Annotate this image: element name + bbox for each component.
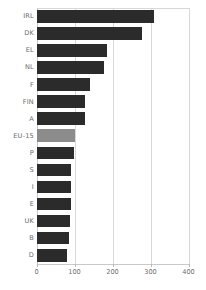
bar-el (37, 44, 107, 57)
category-label-uk: UK (24, 218, 34, 225)
bar-row (37, 93, 189, 110)
bars-layer (37, 8, 189, 264)
bar-chart: IRLDKELNLFFINAEU-15PSIEUKBD 010020030040… (0, 0, 206, 290)
bar-row (37, 127, 189, 144)
category-label-p: P (30, 150, 34, 157)
bar-row (37, 8, 189, 25)
x-tick-label-300: 300 (136, 269, 166, 276)
bar-row (37, 196, 189, 213)
bar-dk (37, 27, 142, 40)
bar-row (37, 213, 189, 230)
bar-nl (37, 61, 105, 74)
category-label-f: F (30, 82, 34, 89)
tick-mark-0 (37, 264, 38, 267)
bar-b (37, 232, 69, 245)
category-label-d: D (29, 252, 34, 259)
x-tick-label-100: 100 (60, 269, 90, 276)
bar-eu-15 (37, 129, 75, 142)
tick-mark-100 (75, 264, 76, 267)
bar-p (37, 147, 75, 160)
bar-a (37, 112, 86, 125)
category-label-e: E (30, 201, 34, 208)
bar-row (37, 110, 189, 127)
tick-mark-300 (151, 264, 152, 267)
bar-row (37, 42, 189, 59)
bar-fin (37, 95, 86, 108)
category-label-i: I (32, 184, 34, 191)
tick-mark-200 (113, 264, 114, 267)
tick-mark-400 (189, 264, 190, 267)
bar-row (37, 145, 189, 162)
bar-row (37, 247, 189, 264)
gridline-400 (189, 8, 190, 264)
bar-row (37, 179, 189, 196)
bar-irl (37, 10, 155, 23)
bar-e (37, 198, 72, 211)
category-label-b: B (29, 235, 34, 242)
category-label-irl: IRL (23, 13, 34, 20)
category-label-el: EL (26, 47, 34, 54)
category-label-dk: DK (24, 30, 34, 37)
bar-row (37, 76, 189, 93)
category-label-s: S (30, 167, 34, 174)
category-label-fin: FIN (23, 99, 34, 106)
bar-s (37, 164, 72, 177)
x-tick-label-400: 400 (174, 269, 204, 276)
category-label-nl: NL (25, 64, 34, 71)
bar-d (37, 249, 67, 262)
bar-row (37, 162, 189, 179)
x-tick-label-0: 0 (22, 269, 52, 276)
x-tick-label-200: 200 (98, 269, 128, 276)
category-label-eu-15: EU-15 (13, 133, 34, 140)
bar-row (37, 59, 189, 76)
bar-row (37, 25, 189, 42)
bar-row (37, 230, 189, 247)
bar-f (37, 78, 91, 91)
category-label-a: A (29, 116, 34, 123)
bar-uk (37, 215, 70, 228)
bar-i (37, 181, 72, 194)
